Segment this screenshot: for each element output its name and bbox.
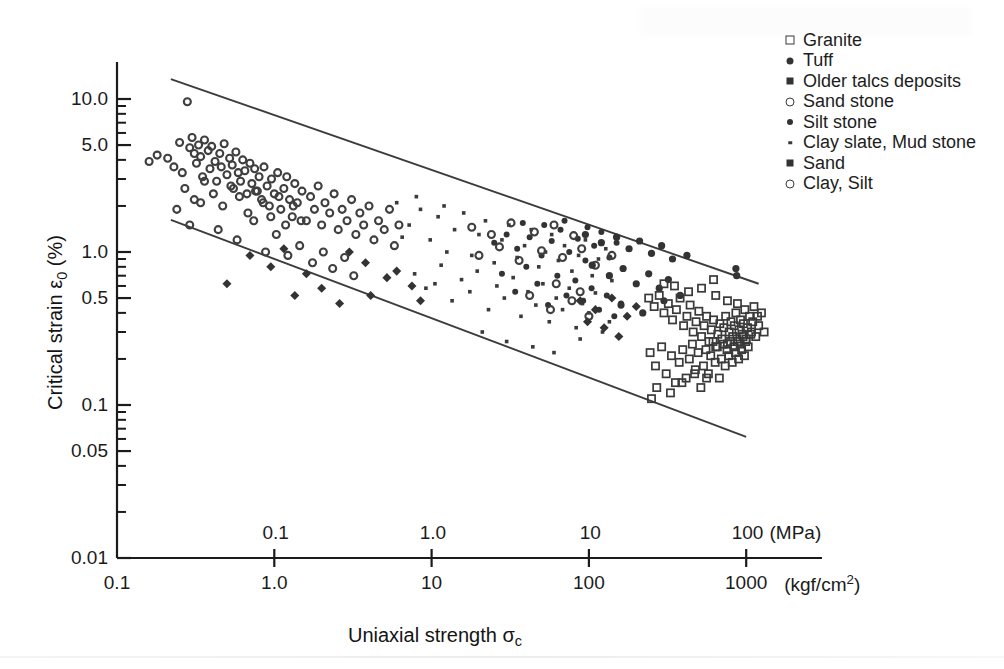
data-point: [679, 346, 686, 353]
data-point: [589, 285, 595, 291]
y-axis-ticks: [117, 99, 131, 558]
x-axis-title: Uniaxial strength σc: [270, 624, 600, 649]
data-point: [415, 195, 419, 199]
series-clay-silt: [146, 98, 403, 279]
data-point: [298, 188, 305, 195]
data-point: [296, 242, 303, 249]
filled-circle-sm-marker-icon: [780, 112, 800, 132]
data-point: [578, 337, 582, 341]
data-point: [577, 254, 581, 258]
data-point: [523, 264, 529, 270]
data-point: [268, 176, 275, 183]
data-point-layer: [146, 98, 768, 402]
data-point: [248, 180, 255, 187]
data-point: [648, 250, 655, 257]
data-point: [470, 254, 474, 258]
data-point: [550, 233, 554, 237]
sigma-symbol: σ: [502, 624, 514, 646]
data-point: [218, 163, 225, 170]
data-point: [477, 233, 481, 237]
legend-item-older-talcs-deposits[interactable]: Older talcs deposits: [780, 71, 1004, 92]
data-point: [500, 238, 504, 242]
data-point: [608, 252, 615, 259]
data-point: [676, 359, 683, 366]
epsilon-symbol: ε: [44, 280, 66, 289]
legend-item-clay-silt[interactable]: Clay, Silt: [780, 174, 1004, 195]
series-tuff: [582, 231, 740, 317]
data-point: [683, 252, 690, 259]
data-point: [339, 206, 346, 213]
legend-item-label: Silt stone: [800, 112, 877, 133]
data-point: [289, 213, 296, 220]
legend-item-clay-slate-mud-stone[interactable]: Clay slate, Mud stone: [780, 133, 1004, 154]
data-point: [553, 280, 560, 287]
data-point: [201, 136, 208, 143]
data-point: [370, 236, 377, 243]
data-point: [733, 272, 740, 279]
x-tick-label-kgf: 1000: [725, 572, 767, 594]
data-point: [392, 267, 401, 276]
data-point: [484, 219, 488, 223]
data-point: [660, 309, 667, 316]
legend-item-label: Clay slate, Mud stone: [800, 132, 976, 153]
data-point: [318, 222, 325, 229]
data-point: [667, 389, 674, 396]
x-axis-title-text: Uniaxial strength: [348, 624, 503, 646]
data-point: [439, 263, 443, 267]
data-point: [673, 306, 680, 313]
data-point: [280, 185, 287, 192]
legend-item-sand[interactable]: Sand: [780, 153, 1004, 174]
data-point: [480, 330, 484, 334]
data-point: [223, 171, 230, 178]
data-point: [236, 193, 243, 200]
legend-item-sand-stone[interactable]: Sand stone: [780, 92, 1004, 113]
data-point: [419, 208, 423, 212]
data-point: [317, 284, 326, 293]
data-point: [366, 202, 373, 209]
data-point: [206, 165, 213, 172]
data-point: [197, 153, 204, 160]
data-point: [547, 320, 551, 324]
legend-item-silt-stone[interactable]: Silt stone: [780, 112, 1004, 133]
data-point: [424, 286, 428, 290]
data-point: [442, 204, 446, 208]
data-point: [361, 258, 370, 267]
data-point: [468, 290, 472, 294]
data-point: [572, 278, 578, 284]
data-point: [307, 193, 314, 200]
data-point: [690, 328, 697, 335]
data-point: [734, 300, 741, 307]
data-point: [514, 246, 520, 252]
data-point: [598, 229, 604, 235]
data-point: [508, 219, 515, 226]
data-point: [360, 222, 367, 229]
data-point: [653, 384, 660, 391]
data-point: [221, 140, 228, 147]
dot-marker-icon: [780, 133, 800, 153]
data-point: [487, 308, 491, 312]
data-point: [534, 303, 538, 307]
data-point: [234, 236, 241, 243]
data-point: [582, 257, 588, 263]
legend-item-tuff[interactable]: Tuff: [780, 51, 1004, 72]
data-point: [645, 294, 652, 301]
data-point: [570, 232, 577, 239]
legend-item-label: Older talcs deposits: [800, 71, 961, 92]
data-point: [578, 245, 585, 252]
data-point: [146, 158, 153, 165]
legend-item-label: Sand: [800, 153, 845, 174]
series-sand: [222, 244, 425, 308]
data-point: [154, 152, 161, 159]
data-point: [663, 370, 670, 377]
data-point: [541, 222, 547, 228]
data-point: [239, 156, 246, 163]
data-point: [554, 296, 558, 300]
unit-label-mpa: (MPa): [770, 522, 822, 544]
series-silt-stone: [491, 218, 624, 320]
series-granite: [645, 276, 768, 402]
x-tick-label-mpa: 10: [580, 522, 601, 544]
data-point: [512, 289, 518, 295]
data-point: [352, 231, 359, 238]
data-point: [519, 314, 523, 318]
data-point: [215, 226, 222, 233]
